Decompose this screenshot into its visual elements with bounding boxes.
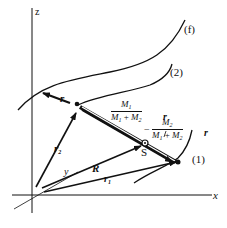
lower-fraction-sign: −: [144, 125, 150, 135]
curve-f: [18, 20, 185, 110]
y-axis-label: y: [64, 167, 68, 177]
curve-f-label: (f): [184, 24, 195, 35]
body-2-point: [75, 102, 80, 107]
r-vector: [43, 93, 70, 103]
lower-fraction: M2 M1 + M2: [152, 118, 183, 141]
curve-2-label: (2): [170, 67, 183, 78]
S-label: S: [141, 147, 147, 158]
R-label: R: [92, 163, 99, 174]
r2-label: r2: [54, 143, 61, 155]
r1-label: r1: [104, 174, 111, 185]
z-axis-label: z: [35, 7, 39, 17]
upper-fraction: M1 M1 + M2: [111, 100, 142, 123]
lower-fraction-r: r: [204, 128, 208, 138]
x-axis-label: x: [213, 190, 218, 201]
r-label: r: [60, 93, 64, 104]
two-body-diagram: z x y (f) (2) (1) r r2 R r1 S M1 M1 + M2…: [0, 0, 227, 228]
body-1-point: [176, 160, 181, 165]
curve-1-label: (1): [192, 154, 205, 165]
